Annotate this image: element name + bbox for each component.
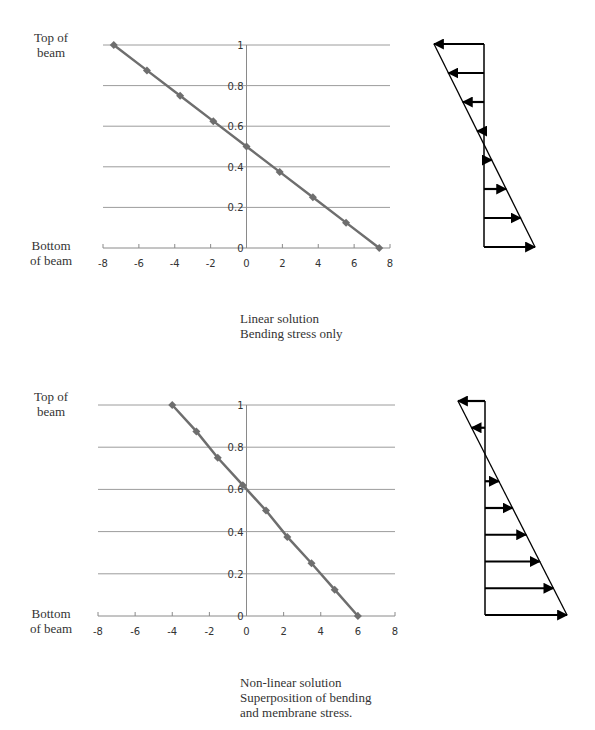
stress-diagram-linear (434, 44, 535, 247)
y-tick-label: 0.2 (228, 202, 244, 213)
x-tick-label: 6 (351, 258, 357, 269)
y-tick-label: 0.8 (228, 442, 244, 453)
y-tick-label: 0 (237, 611, 243, 622)
y-tick-label: 1 (237, 400, 243, 411)
x-tick-label: 0 (243, 258, 249, 269)
x-tick-label: -4 (170, 258, 180, 269)
y-tick-label: 0.8 (228, 81, 244, 92)
y-tick-label: 1 (237, 40, 243, 51)
x-tick-label: -6 (134, 258, 144, 269)
x-tick-label: -8 (98, 258, 108, 269)
x-tick-label: -2 (204, 626, 214, 637)
x-tick-label: -4 (167, 626, 177, 637)
x-tick-label: 8 (387, 258, 393, 269)
x-tick-label: 6 (355, 626, 361, 637)
figure-canvas: -8-6-4-20246800.20.40.60.81 -8-6-4-20246… (0, 0, 595, 730)
x-tick-label: 0 (243, 626, 249, 637)
chart-nonlinear: -8-6-4-20246800.20.40.60.81 (93, 400, 398, 637)
y-tick-label: 0.2 (228, 569, 244, 580)
y-tick-label: 0.6 (228, 121, 244, 132)
x-tick-label: 8 (392, 626, 398, 637)
y-tick-label: 0.4 (228, 162, 244, 173)
chart-linear: -8-6-4-20246800.20.40.60.81 (98, 40, 393, 269)
y-tick-label: 0.4 (228, 527, 244, 538)
x-tick-label: 4 (315, 258, 321, 269)
x-tick-label: 4 (318, 626, 324, 637)
x-tick-label: -2 (206, 258, 216, 269)
x-tick-label: -8 (93, 626, 103, 637)
y-tick-label: 0 (237, 243, 243, 254)
x-tick-label: -6 (130, 626, 140, 637)
x-tick-label: 2 (280, 626, 286, 637)
stress-diagram-nonlinear (458, 401, 567, 615)
x-tick-label: 2 (279, 258, 285, 269)
